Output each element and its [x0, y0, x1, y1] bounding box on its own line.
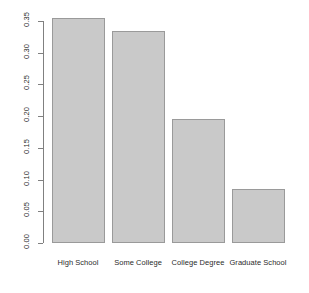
y-axis-tick-label-text: 0.15	[22, 139, 31, 154]
y-axis-tick-label-text: 0.05	[22, 202, 31, 217]
y-axis-tick-label: 0.20	[0, 110, 34, 119]
y-axis-tick-label: 0.05	[0, 205, 34, 214]
y-axis-tick	[38, 21, 43, 22]
bars-layer	[0, 0, 309, 293]
y-axis-tick-label-text: 0.20	[22, 107, 31, 122]
bar	[172, 119, 225, 243]
x-axis-label: High School	[48, 258, 108, 267]
x-axis-label: Some College	[108, 258, 168, 267]
y-axis-tick-label-text: 0.25	[22, 75, 31, 90]
y-axis-tick-label-text: 0.00	[22, 234, 31, 249]
y-axis-tick	[38, 53, 43, 54]
y-axis-tick-label-text: 0.10	[22, 171, 31, 186]
y-axis-tick-label: 0.25	[0, 78, 34, 87]
x-axis-label: Graduate School	[228, 258, 288, 267]
y-axis-tick-label: 0.35	[0, 15, 34, 24]
y-axis-tick-label-text: 0.30	[22, 44, 31, 59]
bar-chart: 0.000.050.100.150.200.250.300.35 High Sc…	[0, 0, 309, 293]
bar	[232, 189, 285, 243]
y-axis-tick	[38, 211, 43, 212]
y-axis-tick-label: 0.00	[0, 237, 34, 246]
bar	[52, 18, 105, 243]
y-axis-tick	[38, 180, 43, 181]
y-axis-tick	[38, 116, 43, 117]
y-axis-tick-label: 0.15	[0, 142, 34, 151]
y-axis-tick	[38, 148, 43, 149]
y-axis-tick	[38, 84, 43, 85]
bar	[112, 31, 165, 243]
y-axis-tick-label-text: 0.35	[22, 12, 31, 27]
y-axis-tick-label: 0.30	[0, 47, 34, 56]
y-axis-tick	[38, 243, 43, 244]
y-axis-tick-label: 0.10	[0, 174, 34, 183]
x-axis-label: College Degree	[168, 258, 228, 267]
